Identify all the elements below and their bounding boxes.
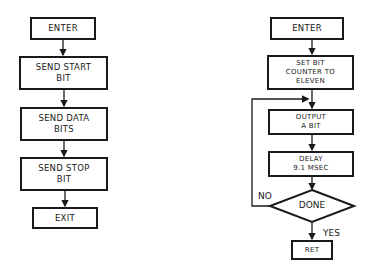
- right-delay-node: DELAY 9.1 MSEC: [268, 151, 354, 177]
- right-done-label: DONE: [292, 200, 332, 210]
- yes-branch-label: YES: [323, 228, 340, 238]
- no-branch-label: NO: [258, 191, 272, 201]
- right-output-a-bit-node: OUTPUT A BIT: [268, 109, 354, 135]
- left-enter-node: ENTER: [30, 17, 96, 40]
- right-ret-node: RET: [291, 240, 333, 260]
- left-send-start-bit-node: SEND START BIT: [19, 56, 108, 90]
- left-exit-node: EXIT: [32, 207, 98, 229]
- right-set-bit-counter-node: SET BIT COUNTER TO ELEVEN: [267, 55, 354, 90]
- left-send-stop-bit-node: SEND STOP BIT: [20, 157, 108, 191]
- right-enter-node: ENTER: [270, 17, 344, 40]
- left-send-data-bits-node: SEND DATA BITS: [20, 107, 108, 141]
